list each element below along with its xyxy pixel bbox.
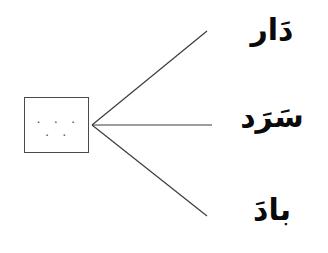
connector-line-top[interactable] <box>92 31 207 125</box>
answer-choice-0[interactable]: دَار <box>224 14 320 46</box>
connector-line-bottom[interactable] <box>92 125 207 216</box>
blank-dots: . . . . . <box>25 112 88 138</box>
answer-choice-1[interactable]: سَرَد <box>224 101 320 133</box>
answer-choice-2[interactable]: بادَ <box>224 194 320 226</box>
blank-answer-box[interactable]: . . . . . <box>24 97 89 153</box>
worksheet-canvas: . . . . . دَار سَرَد بادَ <box>0 0 328 253</box>
